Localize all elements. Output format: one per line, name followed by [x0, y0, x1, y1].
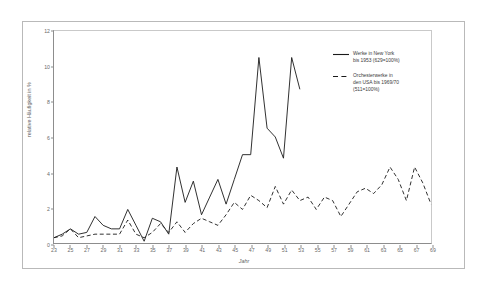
legend-label-werke-new-york: Werke in New Yorkbis 1953 (629=100%): [353, 50, 400, 64]
x-tick-mark: [119, 245, 120, 248]
y-tick-label: 12: [44, 28, 50, 34]
x-tick-mark: [301, 245, 302, 248]
x-tick-mark: [383, 245, 384, 248]
legend-item-orchesterwerke-usa: Orchesterwerke inden USA bis 1969/70(511…: [333, 72, 429, 93]
legend-item-werke-new-york: Werke in New Yorkbis 1953 (629=100%): [333, 50, 429, 64]
x-tick-mark: [433, 245, 434, 248]
legend-line-1: Orchesterwerke in: [353, 73, 393, 78]
x-tick-mark: [169, 245, 170, 248]
legend-key-dashed-icon: [333, 75, 349, 78]
series-line-werke-new-york: [54, 58, 300, 242]
x-tick-mark: [70, 245, 71, 248]
y-tick-label: 2: [47, 206, 50, 212]
x-tick-mark: [103, 245, 104, 248]
x-tick-mark: [218, 245, 219, 248]
x-tick-mark: [202, 245, 203, 248]
x-tick-mark: [317, 245, 318, 248]
x-tick-mark: [350, 245, 351, 248]
chart-legend: Werke in New Yorkbis 1953 (629=100%) Orc…: [333, 50, 429, 102]
legend-key-solid-icon: [333, 53, 349, 56]
y-tick-label: 8: [47, 99, 50, 105]
x-tick-mark: [367, 245, 368, 248]
y-tick-label: 6: [47, 135, 50, 141]
x-tick-mark: [416, 245, 417, 248]
legend-line-2: den USA bis 1969/70: [353, 80, 399, 85]
x-tick-mark: [54, 245, 55, 248]
series-line-orchesterwerke-usa: [54, 167, 431, 238]
legend-line-1: Werke in New York: [353, 51, 394, 56]
x-tick-mark: [235, 245, 236, 248]
x-tick-mark: [136, 245, 137, 248]
y-tick-label: 0: [47, 242, 50, 248]
x-tick-mark: [284, 245, 285, 248]
x-tick-mark: [251, 245, 252, 248]
chart-figure: relative Häufigkeit in % 024681012 23252…: [0, 0, 488, 288]
x-tick-mark: [268, 245, 269, 248]
x-tick-mark: [400, 245, 401, 248]
x-tick-mark: [185, 245, 186, 248]
legend-line-2: bis 1953 (629=100%): [353, 58, 400, 63]
x-tick-mark: [86, 245, 87, 248]
legend-label-orchesterwerke-usa: Orchesterwerke inden USA bis 1969/70(511…: [353, 72, 399, 93]
x-tick-mark: [152, 245, 153, 248]
x-tick-mark: [334, 245, 335, 248]
x-axis-label: Jahr: [0, 258, 488, 264]
legend-line-3: (511=100%): [353, 87, 379, 92]
y-tick-label: 4: [47, 171, 50, 177]
y-tick-label: 10: [44, 64, 50, 70]
y-axis-label: relative Häufigkeit in %: [26, 82, 32, 137]
